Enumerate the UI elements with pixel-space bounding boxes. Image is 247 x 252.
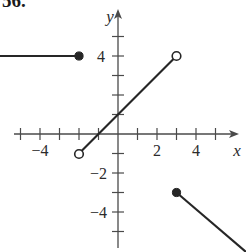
axes-group — [14, 9, 239, 248]
y-tick-label--4: −4 — [90, 204, 107, 221]
x-tick-label-2: 2 — [153, 142, 161, 159]
x-tick-label--4: −4 — [31, 142, 48, 159]
y-tick-label-4: 4 — [97, 48, 105, 65]
y-axis-label: y — [104, 7, 114, 26]
graph-figure: 56. — [0, 0, 246, 252]
open-endpoint--2--1 — [75, 150, 84, 159]
segment-diagonal — [79, 56, 177, 154]
axis-name-group: y x — [104, 7, 241, 160]
closed-endpoint--2-4 — [75, 52, 83, 60]
x-tick-label-4: 4 — [192, 142, 200, 159]
coordinate-plane: −4 2 4 4 −2 −4 y x — [0, 0, 246, 252]
closed-endpoint-3--3 — [172, 188, 180, 196]
x-axis-label: x — [232, 141, 241, 160]
open-endpoint-3-4 — [172, 52, 181, 61]
segment-descending-ray — [177, 193, 247, 252]
y-tick-label--2: −2 — [90, 165, 107, 182]
